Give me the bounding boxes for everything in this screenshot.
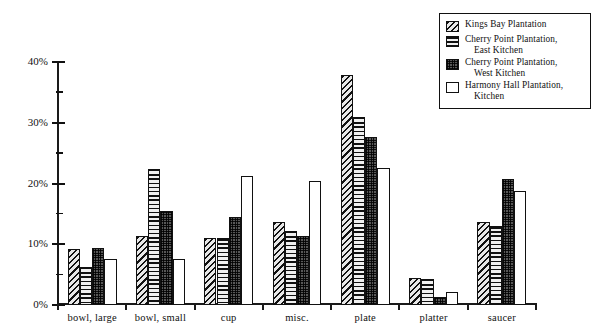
y-axis-tick-label: 40% <box>4 55 48 67</box>
bar-group <box>126 62 194 305</box>
legend-label-line2: East Kitchen <box>465 45 558 56</box>
bar <box>353 117 365 305</box>
bar-group <box>195 62 263 305</box>
bar <box>409 278 421 305</box>
bar <box>104 259 116 305</box>
x-tick <box>125 303 127 310</box>
x-tick-end <box>535 303 537 310</box>
legend: Kings Bay PlantationCherry Point Plantat… <box>439 13 591 109</box>
bar <box>377 168 389 305</box>
bar-chart: 0%10%20%30%40% bowl, largebowl, smallcup… <box>0 0 600 336</box>
y-axis-tick-label: 10% <box>4 237 48 249</box>
y-axis-tick-label: 0% <box>4 298 48 310</box>
legend-label-line1: Kings Bay Plantation <box>465 19 547 29</box>
bar <box>297 236 309 305</box>
legend-label: Harmony Hall Plantation,Kitchen <box>465 80 563 101</box>
bar-group <box>331 62 399 305</box>
x-axis-category-label: platter <box>399 312 467 323</box>
bar <box>273 222 285 305</box>
bar <box>502 179 514 305</box>
x-axis-category-label: plate <box>331 312 399 323</box>
bar <box>229 217 241 305</box>
legend-item: Cherry Point Plantation,West Kitchen <box>446 57 585 78</box>
x-tick <box>330 303 332 310</box>
legend-item: Kings Bay Plantation <box>446 19 585 32</box>
bar <box>173 259 185 305</box>
x-axis-category-label: bowl, large <box>58 312 126 323</box>
bar <box>285 231 297 305</box>
legend-item: Cherry Point Plantation,East Kitchen <box>446 34 585 55</box>
bar <box>217 238 229 305</box>
x-tick <box>262 303 264 310</box>
legend-label: Cherry Point Plantation,West Kitchen <box>465 57 558 78</box>
bar <box>434 297 446 305</box>
legend-swatch-icon <box>446 36 459 47</box>
legend-swatch-icon <box>446 59 459 70</box>
legend-label: Kings Bay Plantation <box>465 19 547 30</box>
legend-label: Cherry Point Plantation,East Kitchen <box>465 34 558 55</box>
y-axis-tick-label: 20% <box>4 177 48 189</box>
bar <box>514 191 526 305</box>
x-axis-category-label: bowl, small <box>126 312 194 323</box>
x-axis-category-label: misc. <box>263 312 331 323</box>
x-axis-category-label: saucer <box>468 312 536 323</box>
x-tick <box>467 303 469 310</box>
legend-item: Harmony Hall Plantation,Kitchen <box>446 80 585 101</box>
bar <box>160 211 172 305</box>
x-tick <box>398 303 400 310</box>
bar <box>446 292 458 305</box>
bar-group <box>263 62 331 305</box>
bar <box>241 176 253 305</box>
bar <box>341 75 353 305</box>
x-axis-category-label: cup <box>195 312 263 323</box>
legend-label-line1: Cherry Point Plantation, <box>465 57 558 67</box>
x-tick <box>194 303 196 310</box>
legend-swatch-icon <box>446 21 459 32</box>
bar-group <box>58 62 126 305</box>
x-tick-end <box>57 303 59 310</box>
y-axis-tick-label: 30% <box>4 116 48 128</box>
legend-swatch-icon <box>446 82 459 93</box>
bar <box>477 222 489 305</box>
bar <box>148 169 160 305</box>
bar <box>204 238 216 305</box>
legend-label-line1: Harmony Hall Plantation, <box>465 80 563 90</box>
bar <box>80 267 92 305</box>
bar <box>490 226 502 305</box>
legend-label-line2: West Kitchen <box>465 68 558 79</box>
legend-label-line1: Cherry Point Plantation, <box>465 34 558 44</box>
legend-label-line2: Kitchen <box>465 91 563 102</box>
bar <box>92 248 104 305</box>
bar <box>68 249 80 305</box>
bar <box>421 279 433 305</box>
bar <box>309 181 321 305</box>
bar <box>365 137 377 305</box>
bar <box>136 236 148 305</box>
